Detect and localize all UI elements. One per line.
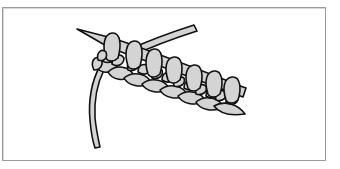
stitch-loop xyxy=(166,57,182,83)
stitch-loop xyxy=(146,49,162,77)
illustration-canvas: .o { stroke: #111111; stroke-width: 1.6;… xyxy=(0,0,340,169)
stitch-loop xyxy=(186,65,202,91)
stitch-loop xyxy=(206,71,222,97)
yarn-tail xyxy=(89,66,104,148)
stitch-loop xyxy=(126,41,142,69)
knitting-illustration: .o { stroke: #111111; stroke-width: 1.6;… xyxy=(0,0,340,169)
stitch-loop xyxy=(224,77,240,103)
